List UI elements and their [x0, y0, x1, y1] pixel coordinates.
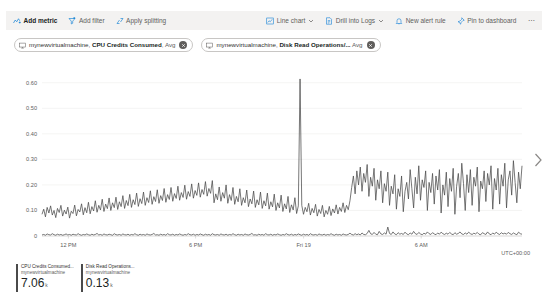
- metric-pill-label: mynewvirtualmachine, Disk Read Operation…: [216, 41, 362, 49]
- close-icon[interactable]: [179, 41, 187, 49]
- legend-color-swatch: [16, 264, 18, 292]
- new-alert-rule-button[interactable]: New alert rule: [394, 16, 447, 26]
- chart-y-tick-label: 0.50: [26, 105, 37, 111]
- legend-value-unit: k: [45, 282, 48, 288]
- legend-resource-name: mynewvirtualmachine: [86, 270, 135, 276]
- chart-x-tick-label: 6 PM: [189, 242, 202, 248]
- toolbar-right-group: Line chart Drill into Logs New alert r: [265, 16, 538, 26]
- legend-value: 7.06k: [21, 276, 74, 292]
- legend-item-cpu-credits-consumed[interactable]: CPU Credits Consumed... mynewvirtualmach…: [16, 264, 74, 292]
- pin-to-dashboard-label: Pin to dashboard: [467, 17, 516, 25]
- pill-metric-name: CPU Credits Consumed: [92, 41, 162, 48]
- drill-into-logs-icon: [325, 17, 333, 25]
- vm-icon: [206, 42, 213, 49]
- chevron-right-icon: [532, 152, 544, 168]
- pill-aggregation: Avg: [165, 41, 176, 48]
- chart-series-group: [42, 79, 522, 235]
- apply-splitting-icon: [116, 17, 124, 25]
- metrics-chart: 00.100.200.300.400.500.60 12 PM6 PMFri 1…: [14, 62, 534, 258]
- chevron-down-icon: [308, 18, 314, 24]
- metric-pill-row: mynewvirtualmachine, CPU Credits Consume…: [14, 38, 381, 52]
- metric-pill-label: mynewvirtualmachine, CPU Credits Consume…: [29, 41, 175, 49]
- chart-series-line-1: [42, 79, 522, 218]
- chevron-down-icon: [378, 18, 384, 24]
- chart-timezone-label: UTC+00:00: [501, 250, 530, 256]
- chart-series-line-2: [42, 227, 522, 235]
- vm-icon: [19, 42, 26, 49]
- add-filter-icon: [68, 17, 76, 25]
- pill-aggregation: Avg: [352, 41, 363, 48]
- chart-y-tick-label: 0.60: [26, 80, 37, 86]
- new-alert-rule-label: New alert rule: [406, 17, 446, 25]
- metrics-chart-page: Add metric Add filter Apply splitting: [0, 0, 548, 302]
- legend-text-block: Disk Read Operations... mynewvirtualmach…: [86, 264, 135, 292]
- line-chart-icon: [266, 17, 274, 25]
- chart-y-tick-label: 0.40: [26, 131, 37, 137]
- legend-color-swatch: [81, 264, 83, 292]
- apply-splitting-label: Apply splitting: [126, 17, 166, 25]
- chart-x-tick-label: 6 AM: [415, 242, 428, 248]
- pill-metric-name: Disk Read Operations/...: [279, 41, 350, 48]
- chart-canvas: 00.100.200.300.400.500.60 12 PM6 PMFri 1…: [14, 62, 534, 258]
- add-filter-button[interactable]: Add filter: [67, 16, 105, 26]
- legend-text-block: CPU Credits Consumed... mynewvirtualmach…: [21, 264, 74, 292]
- close-icon[interactable]: [367, 41, 375, 49]
- chart-next-arrow-button[interactable]: [532, 152, 544, 168]
- legend-value: 0.13k: [86, 276, 135, 292]
- legend-item-disk-read-operations[interactable]: Disk Read Operations... mynewvirtualmach…: [81, 264, 135, 292]
- add-filter-label: Add filter: [79, 17, 105, 25]
- drill-into-logs-button[interactable]: Drill into Logs: [324, 16, 385, 26]
- line-chart-button[interactable]: Line chart: [265, 16, 315, 26]
- new-alert-rule-icon: [395, 17, 403, 25]
- chart-legend: CPU Credits Consumed... mynewvirtualmach…: [16, 264, 135, 292]
- pin-to-dashboard-button[interactable]: Pin to dashboard: [456, 16, 518, 26]
- chart-toolbar: Add metric Add filter Apply splitting: [6, 11, 542, 30]
- legend-value-number: 7.06: [21, 276, 44, 290]
- pin-to-dashboard-icon: [457, 17, 465, 25]
- legend-value-number: 0.13: [86, 276, 109, 290]
- chart-x-axis-labels: 12 PM6 PMFri 196 AM: [60, 236, 428, 248]
- line-chart-label: Line chart: [277, 17, 306, 25]
- metric-pill-disk-read-operations[interactable]: mynewvirtualmachine, Disk Read Operation…: [201, 38, 380, 52]
- chart-y-tick-label: 0.10: [26, 207, 37, 213]
- toolbar-overflow-button[interactable]: ⋯: [526, 17, 538, 25]
- legend-resource-name: mynewvirtualmachine: [21, 270, 74, 276]
- drill-into-logs-label: Drill into Logs: [336, 17, 375, 25]
- legend-value-unit: k: [110, 282, 113, 288]
- chart-y-tick-label: 0.30: [26, 156, 37, 162]
- chart-x-tick-label: Fri 19: [296, 242, 310, 248]
- chart-y-tick-label: 0.20: [26, 182, 37, 188]
- chart-x-tick-label: 12 PM: [60, 242, 77, 248]
- toolbar-left-group: Add metric Add filter Apply splitting: [12, 16, 167, 26]
- add-metric-button[interactable]: Add metric: [12, 16, 58, 26]
- apply-splitting-button[interactable]: Apply splitting: [115, 16, 168, 26]
- pill-resource-name: mynewvirtualmachine,: [216, 41, 277, 48]
- pill-resource-name: mynewvirtualmachine,: [29, 41, 90, 48]
- chart-gridlines: [42, 83, 522, 236]
- chart-y-tick-label: 0: [34, 233, 37, 239]
- metric-pill-cpu-credits-consumed[interactable]: mynewvirtualmachine, CPU Credits Consume…: [14, 38, 193, 52]
- add-metric-icon: [13, 17, 21, 25]
- add-metric-label: Add metric: [24, 17, 58, 25]
- chart-y-axis-labels: 00.100.200.300.400.500.60: [26, 80, 37, 239]
- pill-separator: ,: [162, 41, 164, 48]
